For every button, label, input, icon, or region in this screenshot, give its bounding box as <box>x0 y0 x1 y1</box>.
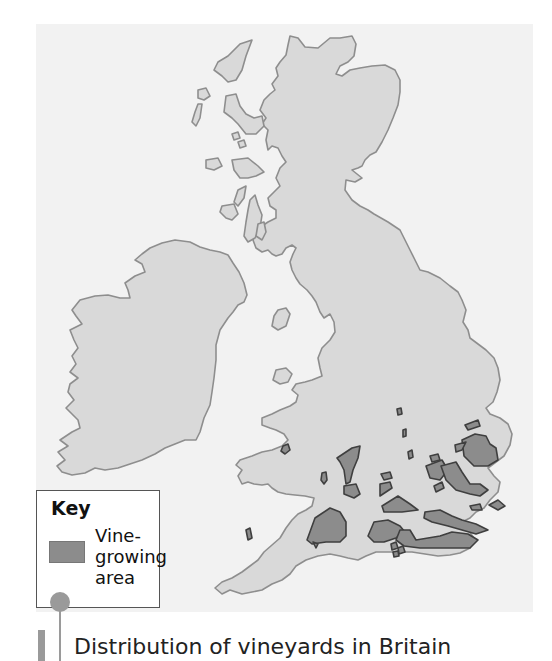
anglesey <box>273 368 292 384</box>
skye-island <box>224 94 264 134</box>
caption-bar-icon <box>38 630 45 661</box>
map-caption: Distribution of vineyards in Britain <box>74 634 451 659</box>
jura-island <box>234 186 246 206</box>
uist-island-1 <box>198 88 210 100</box>
ireland-landmass <box>57 240 247 475</box>
key-title: Key <box>51 497 91 519</box>
coll-tiree <box>206 158 222 170</box>
islay-island <box>220 204 238 220</box>
map-key: Key Vine- growing area <box>36 490 160 608</box>
uist-island-2 <box>192 104 202 126</box>
isle-of-man <box>272 308 290 330</box>
mull-island <box>232 158 264 178</box>
key-item-label: Vine- growing area <box>95 525 167 588</box>
vineyard-swatch <box>49 541 85 563</box>
pin-line <box>59 606 61 661</box>
lewis-island <box>214 40 252 82</box>
small-isle-2 <box>238 140 246 148</box>
small-isle-1 <box>232 132 240 140</box>
